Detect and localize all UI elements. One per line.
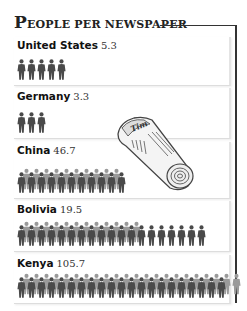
person-icon: [127, 223, 136, 248]
person-icon: [27, 223, 36, 248]
person-icon: [177, 223, 186, 248]
person-icon: [37, 170, 46, 195]
person-icon: [97, 170, 106, 195]
country-panel-kenya: Kenya105.7: [14, 255, 231, 304]
person-icon: [57, 275, 66, 300]
person-icon: [17, 223, 26, 248]
person-icon: [197, 223, 206, 248]
person-icon: [117, 223, 126, 248]
frame-line-right: [235, 25, 237, 303]
person-icon: [97, 275, 106, 300]
person-icon: [127, 275, 136, 300]
country-panel-united-states: United States5.3: [14, 37, 231, 86]
person-icon: [97, 223, 106, 248]
person-icon: [167, 223, 176, 248]
person-icon: [207, 275, 216, 300]
person-icon: [67, 223, 76, 248]
person-icon: [57, 223, 66, 248]
person-icon: [47, 275, 56, 300]
people-pictogram: [17, 275, 226, 300]
person-icon: [117, 275, 126, 300]
person-icon: [87, 275, 96, 300]
person-icon: [157, 275, 166, 300]
person-icon: [67, 170, 76, 195]
person-icon: [167, 275, 176, 300]
person-icon: [197, 275, 206, 300]
person-icon: [232, 272, 241, 296]
person-icon: [27, 57, 36, 82]
country-label: China46.7: [17, 144, 76, 156]
country-label: Kenya105.7: [17, 257, 85, 269]
country-label: Germany3.3: [17, 90, 89, 102]
person-icon: [77, 275, 86, 300]
person-icon: [47, 57, 56, 82]
country-panel-bolivia: Bolivia19.5: [14, 201, 231, 252]
person-icon: [57, 57, 66, 82]
country-label: Bolivia19.5: [17, 203, 82, 215]
person-icon: [177, 275, 186, 300]
person-icon: [27, 275, 36, 300]
person-icon: [47, 170, 56, 195]
person-icon: [17, 57, 26, 82]
person-icon: [87, 223, 96, 248]
person-icon: [47, 223, 56, 248]
country-label: United States5.3: [17, 39, 117, 51]
chart-title: PEOPLE PER NEWSPAPER: [14, 12, 187, 32]
person-icon: [17, 170, 26, 195]
frame-line-top: [160, 25, 236, 26]
person-icon: [147, 223, 156, 248]
person-icon: [17, 110, 26, 135]
person-icon: [77, 223, 86, 248]
person-icon: [67, 275, 76, 300]
people-pictogram: [17, 223, 206, 248]
person-icon: [37, 110, 46, 135]
person-icon: [187, 223, 196, 248]
rolled-newspaper-icon: Tim: [112, 112, 200, 194]
person-icon: [87, 170, 96, 195]
person-icon: [37, 223, 46, 248]
person-icon: [37, 275, 46, 300]
people-pictogram: [17, 170, 126, 195]
person-icon: [137, 275, 146, 300]
person-icon: [27, 110, 36, 135]
person-icon: [77, 170, 86, 195]
person-icon: [187, 275, 196, 300]
people-pictogram: [17, 110, 46, 135]
person-icon: [17, 275, 26, 300]
person-icon: [137, 223, 146, 248]
person-icon: [37, 57, 46, 82]
person-icon: [27, 170, 36, 195]
person-icon: [157, 223, 166, 248]
person-icon: [107, 223, 116, 248]
person-icon: [147, 275, 156, 300]
people-pictogram: [17, 57, 66, 82]
person-icon: [57, 170, 66, 195]
person-icon: [217, 275, 226, 300]
person-icon: [107, 275, 116, 300]
